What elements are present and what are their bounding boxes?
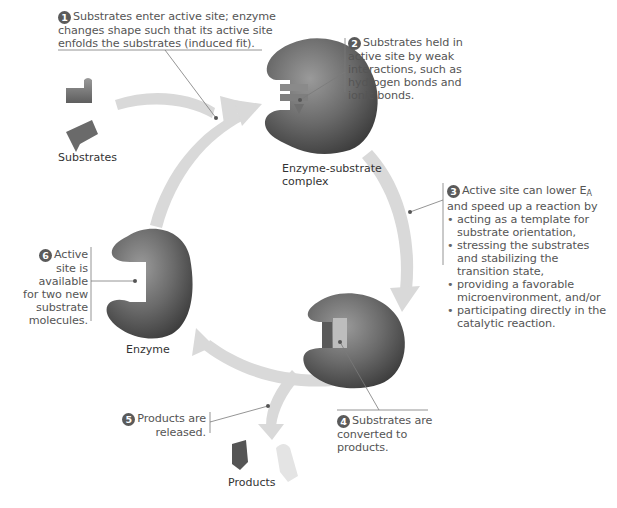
step-1-line-3: enfolds the substrates (induced fit).	[58, 37, 278, 50]
step-1-line-1: Substrates enter active site; enzyme	[73, 10, 276, 23]
step-2-line-5: ionic bonds.	[348, 89, 488, 102]
step-2-line-1: Substrates held in	[363, 36, 463, 49]
step-6-line-1: Active	[54, 248, 88, 261]
enzyme-shape	[107, 229, 193, 339]
mechanism-direct-participation: participating directly in thecatalytic r…	[447, 304, 617, 330]
step-3-intro-1: Active site can lower E	[462, 184, 587, 197]
step-6-line-4: for two new	[20, 288, 88, 301]
products-label: Products	[228, 476, 276, 489]
step-5-caption: 5Products are released.	[110, 412, 206, 439]
arc-enzyme-to-complex	[150, 112, 244, 228]
mechanism-template: acting as a template forsubstrate orient…	[447, 213, 617, 239]
step-6-line-5: substrate	[20, 301, 88, 314]
step-4-caption: 4Substrates are converted to products.	[337, 414, 457, 454]
step-2-line-2: active site by weak	[348, 50, 488, 63]
step-1-caption: 1Substrates enter active site; enzyme ch…	[58, 10, 278, 50]
step-6-caption: 6Active site is available for two new su…	[20, 248, 88, 327]
complex-label: Enzyme-substrate complex	[282, 162, 382, 188]
step-5-badge: 5	[122, 413, 135, 426]
step-3-mechanisms-list: acting as a template forsubstrate orient…	[447, 213, 617, 330]
step-2-line-3: interactions, such as	[348, 63, 488, 76]
step-3-caption: 3Active site can lower EA and speed up a…	[447, 184, 617, 330]
step-4-line-3: products.	[337, 441, 457, 454]
step-6-line-6: molecules.	[20, 314, 88, 327]
complex-label-line-2: complex	[282, 175, 382, 188]
mechanism-stress: stressing the substratesand stabilizing …	[447, 239, 617, 278]
step-6-line-3: available	[20, 275, 88, 288]
step-2-badge: 2	[348, 37, 361, 50]
step-6-line-2: site is	[20, 262, 88, 275]
step-5-line-1: Products are	[137, 412, 206, 425]
step-4-line-2: converted to	[337, 428, 457, 441]
step-3-badge: 3	[447, 185, 460, 198]
step-2-caption: 2Substrates held in active site by weak …	[348, 36, 488, 102]
substrates-label: Substrates	[58, 151, 117, 164]
substrates-shapes	[66, 78, 98, 152]
enzyme-label: Enzyme	[126, 343, 170, 356]
enzyme-products-complex-shape	[303, 293, 404, 388]
mechanism-microenvironment: providing a favorablemicroenvironment, a…	[447, 278, 617, 304]
step-5-line-2: released.	[110, 426, 206, 439]
complex-label-line-1: Enzyme-substrate	[282, 162, 382, 175]
step-6-badge: 6	[39, 249, 52, 262]
step-1-line-2: changes shape such that its active site	[58, 24, 278, 37]
activation-energy-subscript: A	[587, 189, 592, 198]
step-2-line-4: hydrogen bonds and	[348, 76, 488, 89]
step-1-badge: 1	[58, 11, 71, 24]
step-4-badge: 4	[337, 415, 350, 428]
step-3-intro-2: and speed up a reaction by	[447, 200, 617, 213]
step-4-line-1: Substrates are	[352, 414, 432, 427]
